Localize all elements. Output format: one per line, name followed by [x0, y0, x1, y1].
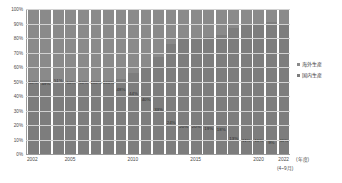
x-axis-tick-label: 2002	[27, 157, 38, 163]
grid-line	[26, 9, 290, 10]
bar-segment-domestic[interactable]	[53, 83, 64, 154]
grid-line	[26, 67, 290, 68]
chart-legend: 海外生産国内生産	[297, 61, 322, 78]
x-axis-tick-label: 2020	[253, 157, 264, 163]
bar-segment-domestic[interactable]	[103, 82, 114, 155]
y-axis-tick-label: 50%	[14, 79, 23, 84]
bar-segment-overseas[interactable]	[216, 9, 227, 35]
x-axis: 200220052010201520202022	[26, 157, 290, 169]
bar-segment-domestic[interactable]	[166, 44, 177, 154]
bar-segment-domestic[interactable]	[253, 25, 264, 154]
legend-label: 国内生産	[302, 72, 322, 78]
bar-segment-overseas[interactable]	[153, 9, 164, 57]
legend-swatch-icon	[297, 74, 300, 77]
bar-segment-domestic[interactable]	[91, 82, 102, 155]
bar-segment-overseas[interactable]	[266, 9, 277, 22]
grid-line	[26, 24, 290, 25]
legend-item[interactable]: 国内生産	[297, 72, 322, 78]
bar-segment-domestic[interactable]	[266, 22, 277, 154]
y-axis: 100%90%80%70%60%50%40%30%20%10%0%	[0, 9, 25, 155]
bar-segment-domestic[interactable]	[241, 25, 252, 154]
legend-item[interactable]: 海外生産	[297, 61, 322, 67]
bar-segment-overseas[interactable]	[40, 9, 51, 80]
bar-segment-domestic[interactable]	[279, 25, 290, 154]
x-axis-tick-label: 2015	[190, 157, 201, 163]
bar-segment-domestic[interactable]	[65, 82, 76, 155]
grid-line	[26, 125, 290, 126]
bar-data-label: 9%	[268, 140, 274, 145]
grid-line	[26, 53, 290, 54]
y-axis-tick-label: 20%	[14, 123, 23, 128]
bar-segment-overseas[interactable]	[103, 9, 114, 82]
y-axis-tick-label: 60%	[14, 65, 23, 70]
y-axis-tick-label: 0%	[16, 152, 23, 157]
y-axis-tick-label: 80%	[14, 36, 23, 41]
bar-segment-domestic[interactable]	[28, 82, 39, 155]
bar-segment-overseas[interactable]	[65, 9, 76, 82]
bar-segment-overseas[interactable]	[116, 9, 127, 79]
bar-segment-overseas[interactable]	[28, 9, 39, 82]
legend-swatch-icon	[297, 63, 300, 66]
x-axis-unit-label: (年度)	[296, 157, 309, 163]
x-axis-tick-label: 2022	[278, 157, 289, 163]
grid-line	[26, 96, 290, 97]
y-axis-tick-label: 10%	[14, 137, 23, 142]
plot-area: 50%49%51%50%50%100%100%48%44%40%33%24%20…	[26, 9, 290, 155]
grid-line	[26, 111, 290, 112]
bar-segment-overseas[interactable]	[91, 9, 102, 82]
bar-segment-overseas[interactable]	[78, 9, 89, 82]
bar-segment-domestic[interactable]	[128, 73, 139, 154]
grid-line	[26, 38, 290, 39]
x-axis-tick-label: 2010	[128, 157, 139, 163]
x-axis-sub-note: (4~9月)	[277, 166, 293, 172]
bar-data-label: 40%	[142, 96, 151, 101]
bar-segment-domestic[interactable]	[78, 82, 89, 155]
bar-data-label: 24%	[167, 120, 176, 125]
stacked-bar-chart: 100%90%80%70%60%50%40%30%20%10%0% 50%49%…	[0, 0, 342, 183]
grid-line	[26, 140, 290, 141]
x-axis-tick-label: 2005	[65, 157, 76, 163]
y-axis-tick-label: 100%	[11, 7, 23, 12]
bar-data-label: 44%	[129, 91, 138, 96]
bar-segment-domestic[interactable]	[40, 80, 51, 154]
bar-data-label: 48%	[117, 86, 126, 91]
y-axis-tick-label: 90%	[14, 21, 23, 26]
bar-segment-overseas[interactable]	[128, 9, 139, 73]
legend-label: 海外生産	[302, 61, 322, 67]
bar-segment-overseas[interactable]	[53, 9, 64, 83]
y-axis-tick-label: 70%	[14, 50, 23, 55]
bar-data-label: 19%	[204, 125, 213, 130]
grid-line	[26, 82, 290, 83]
y-axis-tick-label: 40%	[14, 94, 23, 99]
x-axis-line	[26, 154, 290, 155]
bar-segment-overseas[interactable]	[228, 9, 239, 28]
bar-data-label: 18%	[217, 127, 226, 132]
y-axis-tick-label: 30%	[14, 108, 23, 113]
